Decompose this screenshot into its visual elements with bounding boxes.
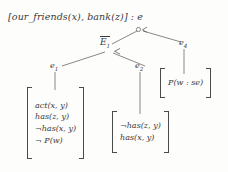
- node-ebar1-letter: E: [100, 37, 107, 47]
- negation-sign: ¬: [120, 121, 127, 130]
- arrowhead-ebar1: [115, 49, 121, 55]
- bracket-right: [206, 68, 211, 98]
- matrix-row: ¬has(z, y): [120, 120, 161, 132]
- matrix-row: ¬has(x, y): [35, 123, 76, 135]
- node-e1-subscript: 1: [55, 66, 59, 72]
- matrix-row: ¬ P(w): [35, 135, 76, 147]
- tree-diagram-figure: [our_friends(x), bank(z)] : e E1 e1 e2 e…: [0, 0, 228, 172]
- root-label: [our_friends(x), bank(z)] : e: [8, 12, 143, 22]
- circle-marker: [136, 27, 140, 31]
- matrix-e4: P(w : se): [160, 68, 211, 98]
- matrix-row-text: has(x, y): [42, 124, 76, 133]
- matrix-e1-rows: act(x, y) has(z, y) ¬has(x, y) ¬ P(w): [32, 87, 79, 159]
- edge-root-to-ebar1: [112, 31, 137, 44]
- matrix-row: has(x, y): [120, 132, 161, 144]
- negation-sign: ¬: [35, 136, 44, 145]
- matrix-row: P(w : se): [168, 77, 203, 89]
- node-e4-subscript: 4: [184, 43, 188, 49]
- matrix-row-text: P(w : se): [168, 78, 203, 87]
- matrix-row-text: has(x, y): [120, 133, 154, 142]
- matrix-row-text: P(w): [44, 136, 62, 145]
- edge-root-to-e4: [143, 31, 181, 42]
- bracket-right: [79, 87, 84, 159]
- matrix-row: act(x, y): [35, 100, 76, 112]
- matrix-row-text: has(z, y): [35, 112, 69, 121]
- matrix-e4-rows: P(w : se): [165, 68, 206, 98]
- negation-sign: ¬: [35, 124, 42, 133]
- bracket-right: [164, 111, 169, 153]
- node-e1: e1: [50, 62, 58, 72]
- matrix-row: has(z, y): [35, 111, 76, 123]
- node-e2-subscript: 2: [140, 66, 144, 72]
- matrix-e2: ¬has(z, y) has(x, y): [112, 111, 169, 153]
- node-ebar1: E1: [100, 36, 110, 49]
- matrix-row-text: has(z, y): [127, 121, 161, 130]
- node-ebar1-subscript: 1: [107, 42, 111, 48]
- node-e4: e4: [179, 39, 187, 49]
- matrix-row-text: act(x, y): [35, 101, 68, 110]
- matrix-e1: act(x, y) has(z, y) ¬has(x, y) ¬ P(w): [27, 87, 84, 159]
- node-e2: e2: [135, 62, 143, 72]
- matrix-e2-rows: ¬has(z, y) has(x, y): [117, 111, 164, 153]
- edge-ebar1-to-e1: [62, 52, 105, 66]
